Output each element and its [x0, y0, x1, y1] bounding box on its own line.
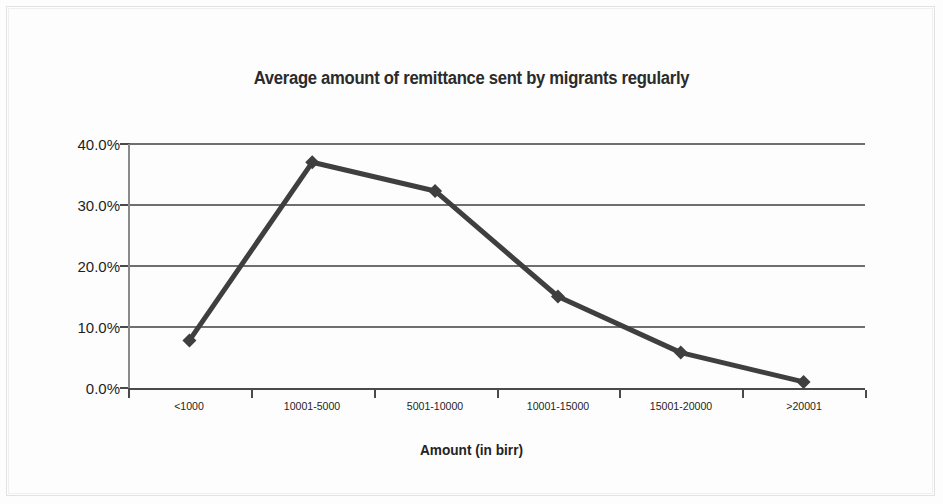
x-axis-tick — [742, 390, 744, 398]
chart-title: Average amount of remittance sent by mig… — [24, 68, 920, 89]
y-axis-tick-label: 0.0% — [50, 380, 120, 397]
series-polyline — [189, 162, 803, 382]
data-point-marker — [797, 375, 811, 389]
x-axis-tick-label: >20001 — [786, 400, 822, 412]
plot-area — [128, 144, 865, 390]
x-axis-tick — [128, 390, 130, 398]
x-axis-tick — [374, 390, 376, 398]
y-axis-labels: 0.0%10.0%20.0%30.0%40.0% — [48, 144, 120, 390]
x-axis-tick — [865, 390, 867, 398]
x-axis-title: Amount (in birr) — [28, 442, 914, 458]
y-axis-tick-label: 20.0% — [50, 258, 120, 275]
x-axis-tick-label: 10001-15000 — [527, 400, 589, 412]
y-axis-tick-label: 10.0% — [50, 319, 120, 336]
series-markers — [182, 155, 810, 389]
x-axis-tick — [251, 390, 253, 398]
x-axis-tick-label: <1000 — [175, 400, 205, 412]
x-axis-tick-label: 5001-10000 — [407, 400, 463, 412]
x-axis-tick — [497, 390, 499, 398]
x-axis-tick-label: 10001-5000 — [284, 400, 340, 412]
y-axis-tick-label: 40.0% — [50, 136, 120, 153]
y-axis-tick-label: 30.0% — [50, 197, 120, 214]
data-series-line — [128, 144, 865, 390]
chart-figure: Average amount of remittance sent by mig… — [0, 0, 943, 504]
x-axis-labels: <100010001-50005001-1000010001-150001500… — [128, 400, 865, 420]
x-axis-tick-label: 15001-20000 — [650, 400, 712, 412]
x-axis-tick — [619, 390, 621, 398]
